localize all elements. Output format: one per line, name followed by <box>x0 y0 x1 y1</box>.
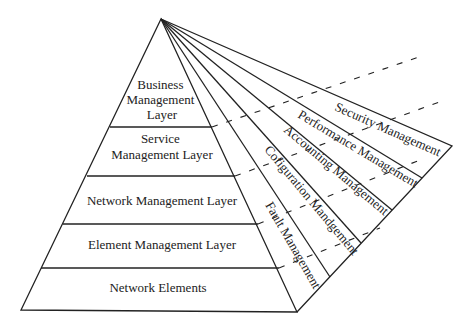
layer-network-elements-label: Network Elements <box>109 280 206 295</box>
layer-element-management-label: Element Management Layer <box>88 237 237 252</box>
tmn-diagram: Business Management Layer Service Manage… <box>0 0 467 330</box>
layer-business-label: Business Management Layer <box>126 77 197 122</box>
layer-network-management-label: Network Management Layer <box>87 193 238 208</box>
layer-service-label: Service Management Layer <box>111 131 213 162</box>
